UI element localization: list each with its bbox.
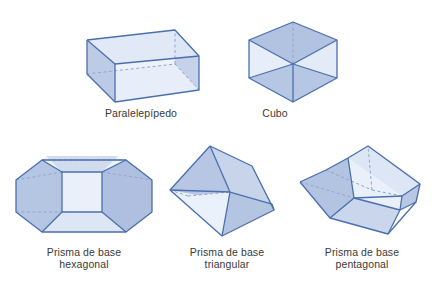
caption-paralelepipedo: Paralelepípedo <box>56 107 226 119</box>
figure-paralelepipedo <box>85 28 201 104</box>
figure-cubo <box>243 20 343 106</box>
caption-cubo: Cubo <box>210 107 340 119</box>
caption-prisma-hexagonal: Prisma de base hexagonal <box>14 246 154 270</box>
figure-prisma-hexagonal <box>14 150 156 242</box>
figure-prisma-pentagonal <box>296 144 422 240</box>
hexprism-body-face <box>62 172 102 212</box>
caption-prisma-triangular: Prisma de base triangular <box>152 246 302 270</box>
figure-prisma-triangular <box>166 144 288 240</box>
geometry-figures-page: Paralelepípedo Cubo <box>0 0 432 282</box>
caption-prisma-pentagonal: Prisma de base pentagonal <box>292 246 432 270</box>
